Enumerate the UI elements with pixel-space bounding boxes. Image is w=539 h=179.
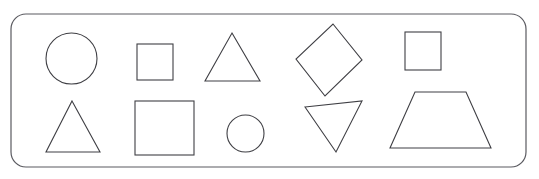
shapes-svg-canvas bbox=[0, 0, 539, 179]
shapes-panel bbox=[0, 0, 539, 179]
